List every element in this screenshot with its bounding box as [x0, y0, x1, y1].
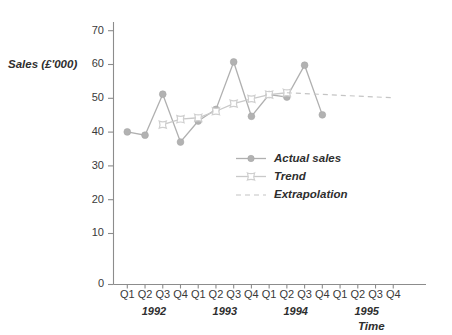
y-tick-label-70: 70	[92, 24, 104, 36]
y-tick-label-0: 0	[98, 277, 104, 289]
data-point-star-icon	[177, 116, 184, 123]
chart-legend: Actual sales Trend Extrapolation	[236, 152, 347, 201]
series-layer	[124, 59, 393, 146]
series-path	[287, 93, 393, 98]
legend-marker-circle-icon	[248, 155, 254, 161]
legend-marker-star-icon	[247, 173, 254, 180]
data-point-star-icon	[195, 114, 202, 121]
legend-label-trend: Trend	[274, 170, 307, 182]
data-point-star-icon	[266, 91, 273, 98]
x-tick-label: Q1	[120, 288, 135, 300]
data-point-marker	[159, 91, 166, 98]
legend-item-actual-sales: Actual sales	[236, 152, 341, 164]
data-point-star-icon	[248, 95, 255, 102]
y-tick-label-40: 40	[92, 125, 104, 137]
y-axis-title: Sales (£'000)	[8, 58, 77, 70]
sales-trend-chart: Sales (£'000) Time 70 60 50 40 30 20 10	[0, 0, 452, 335]
y-tick-label-60: 60	[92, 57, 104, 69]
data-point-marker	[124, 128, 131, 135]
x-tick-label: Q4	[386, 288, 401, 300]
data-point-marker	[230, 59, 237, 66]
data-point-marker	[177, 139, 184, 146]
y-tick-label-30: 30	[92, 159, 104, 171]
data-point-marker	[319, 111, 326, 118]
data-point-marker	[142, 132, 149, 139]
x-axis-year-label: 1993	[213, 305, 237, 317]
x-tick-label: Q3	[155, 288, 170, 300]
x-tick-label: Q2	[280, 288, 295, 300]
y-tick-label-10: 10	[92, 226, 104, 238]
x-tick-label: Q3	[297, 288, 312, 300]
legend-item-extrapolation: Extrapolation	[236, 188, 347, 200]
x-tick-label: Q1	[191, 288, 206, 300]
x-axis-title: Time	[358, 320, 385, 332]
axis-lines	[114, 22, 427, 285]
x-axis-year-label: 1992	[142, 305, 166, 317]
y-tick-label-50: 50	[92, 91, 104, 103]
x-tick-label: Q4	[244, 288, 259, 300]
legend-label-actual-sales: Actual sales	[273, 152, 341, 164]
y-tick-label-20: 20	[92, 193, 104, 205]
x-tick-label: Q2	[350, 288, 365, 300]
x-tick-label: Q3	[368, 288, 383, 300]
data-point-marker	[248, 113, 255, 120]
data-point-star-icon	[212, 108, 219, 115]
x-tick-label: Q2	[209, 288, 224, 300]
chart-svg: Sales (£'000) Time 70 60 50 40 30 20 10	[0, 0, 452, 335]
x-axis-year-label: 1994	[283, 305, 307, 317]
data-point-star-icon	[159, 121, 166, 128]
x-tick-label: Q2	[138, 288, 153, 300]
x-tick-label: Q3	[226, 288, 241, 300]
x-tick-label: Q4	[173, 288, 188, 300]
legend-star-icon	[247, 173, 254, 180]
x-tick-label: Q4	[315, 288, 330, 300]
x-tick-label: Q1	[333, 288, 348, 300]
series-trend	[159, 89, 290, 128]
x-axis-labels: Q1Q2Q3Q4Q1Q2Q3Q4Q1Q2Q3Q4Q1Q2Q3Q419921993…	[120, 285, 401, 318]
series-extrapolation	[287, 93, 393, 98]
series-path	[127, 62, 322, 142]
x-tick-label: Q1	[262, 288, 277, 300]
data-point-star-icon	[230, 100, 237, 107]
x-axis-year-label: 1995	[354, 305, 379, 317]
series-actual-sales	[124, 59, 326, 146]
legend-item-trend: Trend	[236, 170, 307, 182]
legend-label-extrapolation: Extrapolation	[274, 188, 347, 200]
y-axis-ticks: 70 60 50 40 30 20 10 0	[92, 24, 114, 290]
data-point-marker	[301, 62, 308, 69]
